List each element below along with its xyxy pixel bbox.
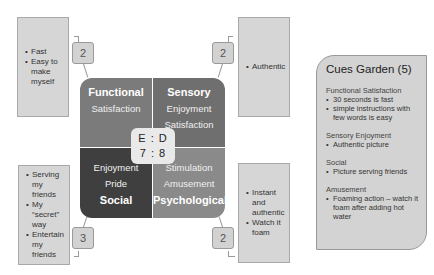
note-item: Entertain my friends (27, 230, 67, 260)
garden-section-title: Sensory Enjoyment (326, 131, 420, 140)
garden-section-title: Amusement (326, 185, 420, 194)
garden-item: Picture serving friends (326, 167, 420, 176)
garden-item: Authentic picture (326, 140, 420, 149)
note-top-right: Authentic (238, 17, 290, 117)
connector-line (83, 64, 88, 78)
garden-section: Amusement Foaming action – watch it foam… (326, 185, 420, 221)
note-item: Instant and authentic (247, 188, 287, 218)
count-badge-bottom-left: 3 (72, 227, 94, 249)
note-bottom-left: Serving my friends My “secret” way Enter… (18, 165, 70, 265)
connector-line (228, 251, 235, 257)
garden-section: Social Picture serving friends (326, 158, 420, 176)
quadrant-item: Pride (80, 178, 152, 189)
count-badge-top-left: 2 (72, 42, 94, 64)
ratio-labels: E : D (131, 131, 175, 146)
note-item: Watch it foam (247, 218, 287, 238)
note-item: Serving my friends (27, 170, 67, 200)
cues-garden-panel: Cues Garden (5) Functional Satisfaction … (316, 55, 427, 250)
count-badge-top-right: 2 (212, 42, 234, 64)
note-item: Easy to make myself (26, 57, 66, 87)
garden-section: Functional Satisfaction 30 seconds is fa… (326, 86, 420, 122)
garden-section: Sensory Enjoyment Authentic picture (326, 131, 420, 149)
quadrant-title: Sensory (153, 86, 225, 98)
quadrant-item: Enjoyment (153, 103, 225, 114)
garden-item: 30 seconds is fast (326, 95, 420, 104)
quadrant-item: Amusement (153, 178, 225, 189)
note-bottom-right: Instant and authentic Watch it foam (238, 163, 290, 263)
count-badge-bottom-right: 2 (212, 227, 234, 249)
note-item: Authentic (247, 62, 285, 72)
quadrant-title: Psychological (153, 194, 225, 206)
connector-line (218, 64, 223, 78)
quadrant-title: Social (80, 194, 152, 206)
garden-item: Foaming action – watch it foam after add… (326, 194, 420, 221)
note-top-left: Fast Easy to make myself (17, 17, 69, 117)
connector-line (74, 251, 79, 257)
garden-section-title: Social (326, 158, 420, 167)
garden-item: simple instructions with few words is ea… (326, 104, 420, 122)
note-item: Fast (26, 47, 66, 57)
garden-title: Cues Garden (5) (326, 65, 420, 74)
note-item: My “secret” way (27, 200, 67, 230)
ratio-values: 7 : 8 (131, 146, 175, 161)
garden-section-title: Functional Satisfaction (326, 86, 420, 95)
quadrant-title: Functional (80, 86, 152, 98)
ratio-box: E : D 7 : 8 (131, 128, 175, 164)
quadrant-item: Satisfaction (80, 103, 152, 114)
